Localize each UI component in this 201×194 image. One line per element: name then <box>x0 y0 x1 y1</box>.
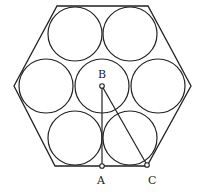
circle-top-right <box>103 7 157 61</box>
circle-bottom-right <box>103 111 157 165</box>
label-c: C <box>148 174 156 187</box>
point-b <box>100 84 105 89</box>
label-b: B <box>98 68 106 81</box>
hexagon-circles-diagram: B A C <box>0 0 201 194</box>
circle-mid-left <box>19 59 73 113</box>
circle-bottom-left <box>48 111 102 165</box>
circle-top-left <box>48 7 102 61</box>
segment-bc <box>102 86 147 165</box>
circle-mid-right <box>131 59 185 113</box>
label-a: A <box>96 174 106 187</box>
point-a <box>100 164 105 169</box>
point-c <box>145 163 150 168</box>
